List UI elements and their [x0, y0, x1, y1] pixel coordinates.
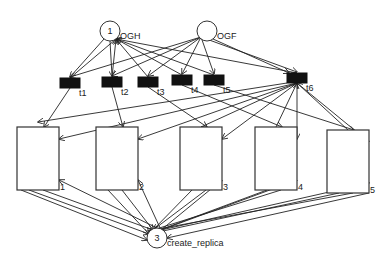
- transition-label: t1: [79, 88, 87, 98]
- arc-r3-to-t6: [201, 83, 297, 127]
- arc-t1-to-OGH: [70, 39, 116, 78]
- place-tokens: 1: [107, 26, 112, 36]
- petri-net-canvas: 1OGHOGF3create_replicat1t2t3t4t5t612345: [0, 0, 390, 263]
- place-tokens: 3: [154, 233, 159, 243]
- subnet-box: [180, 127, 222, 190]
- arc-r1-to-create: [29, 190, 149, 234]
- subnet-box: [17, 127, 59, 190]
- subnet-label: 5: [370, 185, 375, 195]
- transition-bar: [60, 78, 80, 88]
- place-label: OGH: [120, 31, 141, 41]
- arc-OGF-to-t4: [182, 37, 201, 74]
- transition-t3[interactable]: t3: [138, 77, 165, 97]
- place-label: create_replica: [167, 238, 224, 248]
- place-label: OGF: [217, 31, 237, 41]
- transition-t1[interactable]: t1: [60, 78, 87, 98]
- transition-t4[interactable]: t4: [172, 75, 199, 95]
- transition-label: t3: [157, 87, 165, 97]
- transition-label: t6: [306, 83, 314, 93]
- arc-r1-to-create-2: [43, 190, 153, 230]
- subnet-r5[interactable]: 5: [327, 130, 375, 195]
- arc-t1-to-r1: [44, 88, 70, 127]
- arc-OGH-to-t2: [110, 41, 112, 76]
- place-create_replica[interactable]: 3create_replica: [147, 228, 224, 248]
- arc-t6-to-OGH: [116, 39, 297, 73]
- subnet-r4[interactable]: 4: [255, 127, 303, 192]
- subnet-box: [327, 130, 369, 193]
- transition-label: t5: [223, 85, 231, 95]
- arc-r3-to-create-2: [153, 190, 206, 230]
- subnet-label: 1: [60, 182, 65, 192]
- subnet-box: [96, 127, 138, 190]
- transition-t5[interactable]: t5: [204, 75, 231, 95]
- transition-bar: [287, 73, 307, 83]
- subnet-box: [255, 127, 297, 190]
- subnet-label: 2: [139, 182, 144, 192]
- place-OGF[interactable]: OGF: [197, 21, 237, 41]
- transition-label: t2: [121, 87, 129, 97]
- transition-label: t4: [191, 85, 199, 95]
- arc-r5-to-t6: [297, 83, 348, 130]
- arc-OGH-to-t1: [70, 39, 104, 77]
- arc-OGF-to-t6: [201, 37, 297, 72]
- nodes-layer: 1OGHOGF3create_replicat1t2t3t4t5t612345: [17, 21, 375, 248]
- transition-t2[interactable]: t2: [102, 77, 129, 97]
- transition-bar: [102, 77, 122, 87]
- place-circle: [197, 21, 217, 41]
- arc-OGF-to-t6: [213, 39, 289, 73]
- place-OGH[interactable]: 1OGH: [100, 21, 141, 41]
- arc-t2-to-OGH: [112, 39, 116, 77]
- transition-t6[interactable]: t6: [287, 73, 314, 93]
- transition-bar: [138, 77, 158, 87]
- subnet-r2[interactable]: 2: [96, 127, 144, 192]
- transition-bar: [204, 75, 224, 85]
- subnet-r3[interactable]: 3: [180, 127, 228, 192]
- subnet-label: 4: [298, 182, 303, 192]
- subnet-r1[interactable]: 1: [17, 127, 65, 192]
- subnet-label: 3: [223, 182, 228, 192]
- transition-bar: [172, 75, 192, 85]
